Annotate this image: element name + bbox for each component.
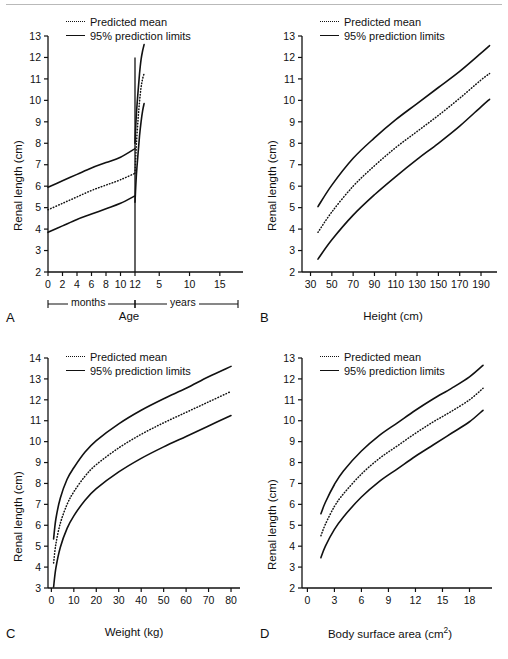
dotted-line-icon: [66, 352, 85, 362]
panel-c-plot: 3456789101112131401020304050607080: [0, 330, 254, 659]
x-tick-label: 4: [74, 278, 80, 290]
x-tick-label: 10: [68, 594, 80, 606]
x-tick-label: 12: [129, 278, 141, 290]
y-tick-label: 5: [289, 519, 295, 531]
y-tick-label: 8: [35, 137, 41, 149]
y-tick-label: 4: [289, 540, 295, 552]
y-tick-label: 12: [283, 51, 295, 63]
series-predicted-mean: [318, 74, 490, 233]
x-tick-label: 2: [60, 278, 66, 290]
x-tick-label: 0: [48, 594, 54, 606]
y-tick-label: 4: [289, 223, 295, 235]
x-tick-label: 15: [437, 594, 449, 606]
y-tick-label: 10: [29, 94, 41, 106]
x-tick-label: 190: [472, 278, 490, 290]
x-tick-label: 30: [305, 278, 317, 290]
y-tick-label: 11: [284, 394, 295, 406]
x-tick-label: 5: [156, 278, 162, 290]
y-tick-label: 7: [35, 498, 41, 510]
solid-line-icon: [320, 366, 339, 376]
solid-line-icon: [66, 366, 85, 376]
legend-label-prediction-limits: 95% prediction limits: [90, 365, 191, 377]
x-tick-label: 0: [45, 278, 51, 290]
legend-label-prediction-limits: 95% prediction limits: [344, 30, 445, 42]
dotted-line-icon: [320, 352, 339, 362]
x-tick-label: 110: [387, 278, 404, 290]
panel-d-plot: 23456789101112130369121518: [254, 330, 508, 659]
chart-panel-b: 234567891011121330507090110130150170190 …: [254, 6, 508, 335]
x-tick-label: 6: [359, 594, 365, 606]
x-tick-label: 170: [451, 278, 469, 290]
y-tick-label: 2: [35, 266, 41, 278]
series-prediction-limit: [318, 99, 490, 259]
x-tick-label: 9: [386, 594, 392, 606]
solid-line-icon: [66, 31, 85, 41]
y-tick-label: 6: [289, 180, 295, 192]
y-tick-label: 13: [283, 352, 295, 364]
panel-a-plot: 234567891011121302468101251015: [0, 6, 254, 335]
legend-label-predicted-mean: Predicted mean: [90, 16, 167, 28]
panel-c-y-axis-title: Renal length (cm): [12, 471, 24, 562]
panel-b-legend: Predicted mean 95% prediction limits: [320, 15, 445, 43]
y-tick-label: 8: [289, 456, 295, 468]
panel-c-letter: C: [6, 626, 15, 641]
x-tick-label: 30: [113, 594, 125, 606]
chart-panel-a: 234567891011121302468101251015 Predicted…: [0, 6, 254, 335]
panel-a-letter: A: [6, 310, 15, 325]
x-tick-label: 20: [90, 594, 102, 606]
y-tick-label: 12: [283, 373, 295, 385]
y-tick-label: 8: [289, 137, 295, 149]
y-tick-label: 3: [289, 244, 295, 256]
x-tick-label: 18: [464, 594, 476, 606]
y-tick-label: 11: [30, 414, 41, 426]
solid-line-icon: [320, 31, 339, 41]
chart-panel-c: 3456789101112131401020304050607080 Predi…: [0, 330, 254, 659]
y-tick-label: 9: [35, 116, 41, 128]
x-tick-label: 3: [331, 594, 337, 606]
x-tick-label: 80: [225, 594, 237, 606]
x-tick-label: 10: [184, 278, 196, 290]
panel-b-x-axis-title: Height (cm): [328, 310, 458, 322]
x-tick-label: 10: [115, 278, 127, 290]
y-tick-label: 13: [283, 30, 295, 42]
dotted-line-icon: [320, 17, 339, 27]
y-tick-label: 7: [289, 477, 295, 489]
panel-a-y-axis-title: Renal length (cm): [12, 140, 24, 231]
superscript-two: 2: [444, 626, 449, 635]
series-prediction-limit: [321, 365, 483, 513]
y-tick-label: 3: [35, 582, 41, 594]
panel-c-legend: Predicted mean 95% prediction limits: [66, 350, 191, 378]
x-tick-label: 50: [326, 278, 338, 290]
panel-b-y-axis-title: Renal length (cm): [266, 140, 278, 231]
y-tick-label: 12: [29, 394, 41, 406]
x-tick-label: 12: [410, 594, 422, 606]
panel-a-months-bracket-label: months: [68, 296, 108, 308]
chart-panel-d: 23456789101112130369121518 Predicted mea…: [254, 330, 508, 659]
y-tick-label: 7: [289, 158, 295, 170]
y-tick-label: 9: [289, 435, 295, 447]
y-tick-label: 11: [30, 73, 41, 85]
y-tick-label: 11: [284, 73, 295, 85]
legend-label-predicted-mean: Predicted mean: [90, 351, 167, 363]
panel-c-x-axis-title: Weight (kg): [74, 626, 194, 638]
x-tick-label: 6: [89, 278, 95, 290]
x-tick-label: 70: [347, 278, 359, 290]
panel-a-legend: Predicted mean 95% prediction limits: [66, 15, 191, 43]
y-tick-label: 14: [29, 352, 41, 364]
y-tick-label: 2: [289, 582, 295, 594]
x-tick-label: 40: [135, 594, 147, 606]
legend-label-prediction-limits: 95% prediction limits: [344, 365, 445, 377]
y-tick-label: 8: [35, 477, 41, 489]
series-prediction-limit: [48, 196, 135, 232]
panel-d-x-axis-title: Body surface area (cm2): [310, 626, 470, 640]
x-tick-label: 90: [369, 278, 381, 290]
y-tick-label: 4: [35, 561, 41, 573]
panel-b-letter: B: [260, 310, 269, 325]
x-tick-label: 150: [430, 278, 448, 290]
y-tick-label: 3: [289, 561, 295, 573]
y-tick-label: 5: [35, 540, 41, 552]
y-tick-label: 9: [35, 456, 41, 468]
y-tick-label: 9: [289, 116, 295, 128]
legend-label-predicted-mean: Predicted mean: [344, 351, 421, 363]
y-tick-label: 6: [289, 498, 295, 510]
